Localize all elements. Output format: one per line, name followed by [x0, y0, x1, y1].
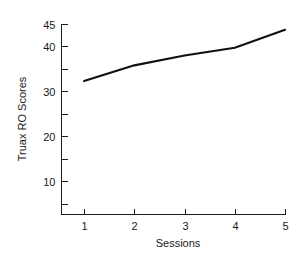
y-axis-major-ticks — [62, 25, 68, 182]
data-series-line — [84, 30, 285, 81]
x-tick-label-3: 3 — [182, 220, 188, 232]
x-tick-label-1: 1 — [81, 220, 87, 232]
x-tick-label-5: 5 — [282, 220, 288, 232]
y-tick-label-40: 40 — [43, 41, 55, 53]
y-tick-label-30: 30 — [43, 86, 55, 98]
x-axis-title: Sessions — [156, 237, 201, 249]
y-tick-label-10: 10 — [43, 176, 55, 188]
y-axis-tick-labels: 1020304045 — [43, 19, 55, 188]
y-tick-label-45: 45 — [43, 19, 55, 31]
x-axis-tick-labels: 12345 — [81, 220, 288, 232]
x-tick-label-4: 4 — [232, 220, 238, 232]
chart-plot-area: 1020304045 12345 Truax RO Scores Session… — [0, 0, 306, 262]
line-chart-figure: 1020304045 12345 Truax RO Scores Session… — [0, 0, 306, 262]
y-axis-title: Truax RO Scores — [16, 76, 28, 161]
y-tick-label-20: 20 — [43, 131, 55, 143]
x-tick-label-2: 2 — [131, 220, 137, 232]
